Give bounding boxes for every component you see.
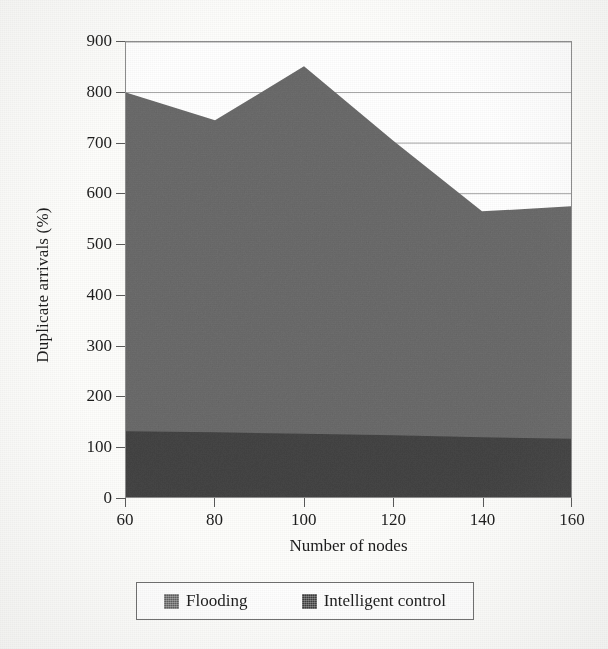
y-tick-label: 400: [58, 285, 112, 305]
x-tick-label: 100: [274, 510, 334, 530]
y-tick-label: 100: [58, 437, 112, 457]
y-tick: [116, 244, 125, 245]
legend-entry-intelligent-control: Intelligent control: [302, 591, 446, 611]
y-tick: [116, 41, 125, 42]
chart-legend: Flooding Intelligent control: [136, 582, 474, 620]
legend-swatch-flooding: [164, 594, 179, 609]
plot-area: [125, 41, 572, 498]
legend-label-intelligent-control: Intelligent control: [324, 591, 446, 611]
y-tick: [116, 143, 125, 144]
y-tick: [116, 92, 125, 93]
y-tick-label: 800: [58, 82, 112, 102]
x-axis-title: Number of nodes: [125, 536, 572, 556]
x-tick-label: 160: [542, 510, 602, 530]
y-tick-label: 500: [58, 234, 112, 254]
y-axis-title: Duplicate arrivals (%): [33, 120, 53, 450]
y-tick-label: 700: [58, 133, 112, 153]
y-tick: [116, 498, 125, 499]
x-tick: [304, 498, 305, 507]
y-tick: [116, 447, 125, 448]
legend-swatch-intelligent-control: [302, 594, 317, 609]
x-tick-label: 60: [95, 510, 155, 530]
x-tick: [214, 498, 215, 507]
x-tick: [393, 498, 394, 507]
x-tick-label: 80: [184, 510, 244, 530]
x-tick: [483, 498, 484, 507]
area-series-group: [126, 66, 571, 497]
x-tick: [571, 498, 572, 507]
y-tick-label: 900: [58, 31, 112, 51]
y-tick-label: 200: [58, 386, 112, 406]
x-tick-label: 120: [363, 510, 423, 530]
y-tick: [116, 295, 125, 296]
chart-figure: Duplicate arrivals (%) 01002003004005006…: [0, 0, 608, 649]
y-tick-label: 600: [58, 183, 112, 203]
y-tick-label: 0: [58, 488, 112, 508]
area-chart-svg: [126, 42, 571, 497]
y-tick: [116, 346, 125, 347]
legend-label-flooding: Flooding: [186, 591, 247, 611]
x-tick: [125, 498, 126, 507]
legend-entry-flooding: Flooding: [164, 591, 247, 611]
area-intelligent-control: [126, 431, 571, 497]
x-tick-label: 140: [453, 510, 513, 530]
y-tick-label: 300: [58, 336, 112, 356]
y-tick: [116, 396, 125, 397]
y-tick: [116, 193, 125, 194]
